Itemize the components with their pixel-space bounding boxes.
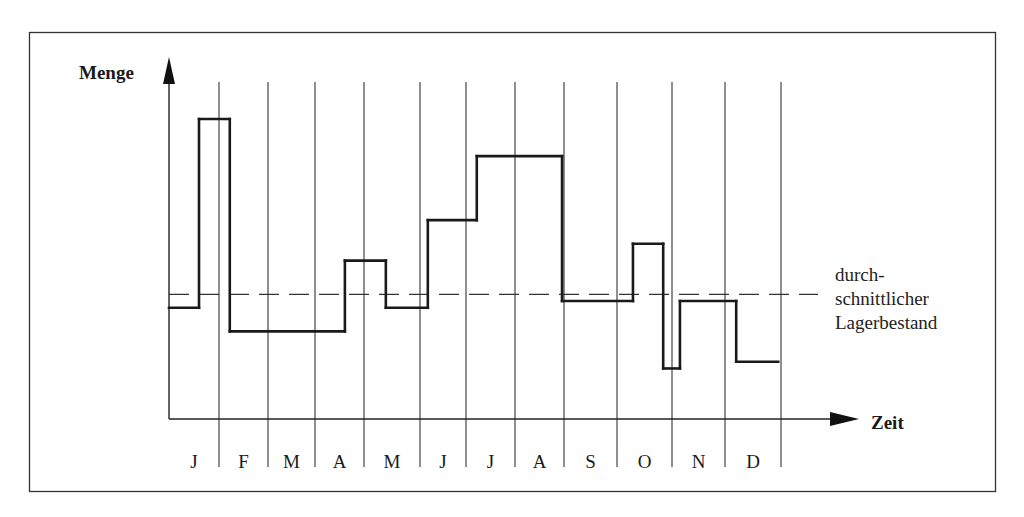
- step-series-group: [169, 119, 778, 368]
- y-axis-arrowhead: [163, 57, 175, 84]
- x-axis-arrowhead: [830, 412, 859, 426]
- legend-line-2: schnittlicher: [835, 288, 930, 309]
- month-label: D: [746, 451, 760, 472]
- y-axis-title: Menge: [79, 62, 134, 83]
- month-label: F: [238, 451, 249, 472]
- month-separators: [219, 82, 781, 467]
- month-label: A: [333, 451, 347, 472]
- month-label: J: [439, 451, 446, 472]
- month-label: M: [384, 451, 401, 472]
- month-label: M: [283, 451, 300, 472]
- legend-line-3: Lagerbestand: [835, 312, 938, 333]
- month-label: A: [533, 451, 547, 472]
- figure-frame: [30, 33, 996, 492]
- month-labels: JFMAMJJASOND: [190, 451, 760, 472]
- month-label: N: [692, 451, 706, 472]
- legend-line-1: durch-: [835, 264, 885, 285]
- month-label: O: [638, 451, 652, 472]
- inventory-step-chart: Menge Zeit JFMAMJJASOND durch- schnittli…: [0, 0, 1024, 517]
- month-label: J: [487, 451, 494, 472]
- x-axis-title: Zeit: [871, 412, 904, 433]
- average-legend: durch- schnittlicher Lagerbestand: [835, 264, 938, 333]
- month-label: S: [585, 451, 596, 472]
- month-label: J: [190, 451, 197, 472]
